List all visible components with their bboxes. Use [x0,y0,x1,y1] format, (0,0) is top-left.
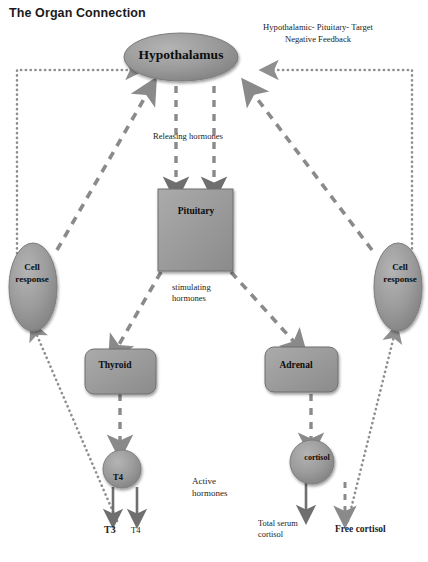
annotation-t4-output: T4 [131,525,140,535]
annotation-total-serum-cortisol: Total serumcortisol [258,518,298,540]
arrow-t4-outputs [113,487,137,516]
diagram-canvas: The Organ Connection [0,0,428,562]
node-cell-response-right[interactable] [374,243,422,331]
annotation-stimulating-hormones: stimulatinghormones [172,282,211,304]
node-cortisol[interactable] [290,440,334,484]
node-adrenal[interactable] [265,347,338,392]
node-cell-response-left[interactable] [9,243,57,331]
node-pituitary[interactable] [158,189,233,271]
annotation-releasing-hormones: Releasing hormones [153,131,223,141]
arrow-gland-to-hormone [120,394,311,444]
node-t4[interactable] [103,450,141,488]
node-thyroid[interactable] [85,349,156,394]
annotation-t3-output: T3 [104,524,116,535]
annotation-free-cortisol: Free cortisol [335,524,386,534]
annotation-active-hormones: Activehormones [192,475,228,499]
annotation-negative-feedback: Hypothalamic- Pituitary- TargetNegative … [218,22,418,45]
